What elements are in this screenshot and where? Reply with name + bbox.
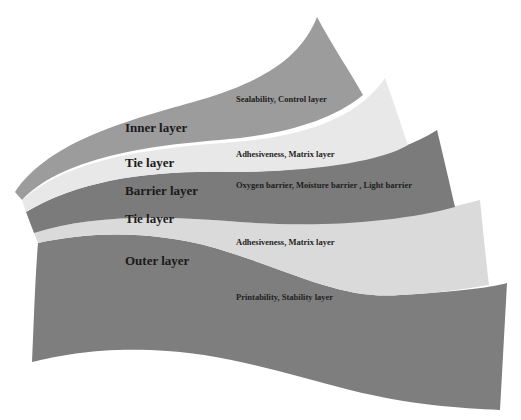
tie-lower-layer-title: Tie layer: [125, 211, 174, 226]
outer-layer-title: Outer layer: [125, 253, 190, 268]
inner-layer-description: Sealability, Control layer: [236, 94, 327, 104]
tie-upper-layer-title: Tie layer: [125, 155, 174, 170]
layer-diagram: Inner layer Tie layer Barrier layer Tie …: [0, 0, 521, 420]
barrier-layer-title: Barrier layer: [125, 183, 198, 198]
tie-lower-layer-description: Adhesiveness, Matrix layer: [236, 237, 335, 247]
inner-layer-title: Inner layer: [125, 120, 187, 135]
outer-layer-description: Printability, Stability layer: [236, 292, 333, 302]
tie-upper-layer-description: Adhesiveness, Matrix layer: [236, 149, 335, 159]
barrier-layer-description: Oxygen barrier, Moisture barrier , Light…: [236, 180, 412, 190]
